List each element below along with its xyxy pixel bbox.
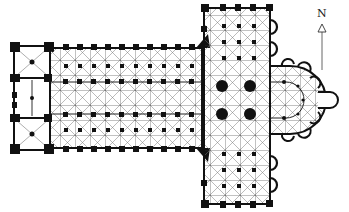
choir-and-chevet [270,59,338,141]
north-label: N [317,8,327,19]
north-arrow-icon [318,24,326,70]
cathedral-floor-plan [0,0,349,212]
west-front [10,42,54,154]
nave [50,34,210,162]
transept [201,4,277,208]
